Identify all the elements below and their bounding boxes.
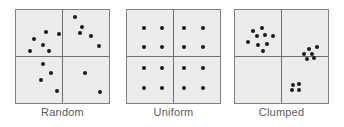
individual-dot — [44, 30, 48, 34]
individual-dot — [260, 26, 264, 30]
individual-dot — [41, 43, 45, 47]
individual-dot — [256, 43, 260, 47]
individual-dot — [312, 56, 316, 60]
panel-random — [15, 9, 110, 104]
panel-clumped — [234, 9, 329, 104]
individual-dot — [201, 26, 205, 30]
individual-dot — [142, 86, 146, 90]
panel-label-uniform: Uniform — [126, 106, 221, 118]
individual-dot — [307, 47, 311, 51]
individual-dot — [47, 49, 51, 53]
individual-dot — [80, 25, 84, 29]
individual-dot — [49, 71, 53, 75]
individual-dot — [142, 26, 146, 30]
individual-dot — [290, 88, 294, 92]
individual-dot — [182, 26, 186, 30]
individual-dot — [32, 37, 36, 41]
individual-dot — [55, 89, 59, 93]
panel-label-clumped: Clumped — [234, 106, 329, 118]
individual-dot — [255, 34, 259, 38]
horizontal-divider-random — [16, 56, 109, 57]
individual-dot — [265, 42, 269, 46]
horizontal-divider-uniform — [127, 56, 220, 57]
individual-dot — [142, 45, 146, 49]
individual-dot — [83, 71, 87, 75]
dispersion-pattern-figure: Random Uniform Clumped — [0, 0, 344, 127]
individual-dot — [297, 88, 301, 92]
individual-dot — [28, 49, 32, 53]
individual-dot — [261, 49, 265, 53]
panel-uniform — [126, 9, 221, 104]
individual-dot — [182, 86, 186, 90]
individual-dot — [251, 29, 255, 33]
panel-label-random: Random — [15, 106, 110, 118]
individual-dot — [182, 45, 186, 49]
